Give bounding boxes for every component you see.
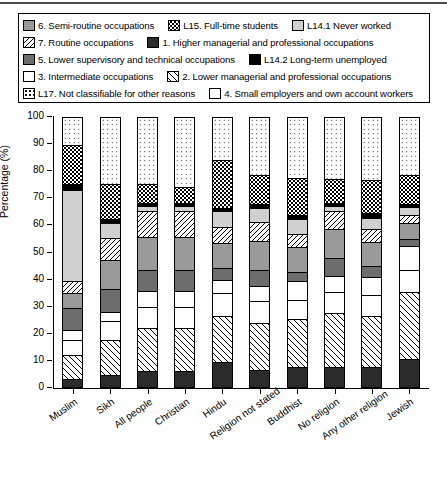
bar-segment-smallemp[interactable] xyxy=(325,277,344,293)
bar-segment-higher[interactable] xyxy=(288,368,307,387)
bar-segment-higher[interactable] xyxy=(250,371,269,387)
bar-segment-lowersup[interactable] xyxy=(63,309,82,331)
bar-segment-semiroutine[interactable] xyxy=(362,243,381,267)
bar-segment-neverworked[interactable] xyxy=(213,212,232,228)
bar-segment-notclass[interactable] xyxy=(325,118,344,180)
bar-segment-routine[interactable] xyxy=(250,223,269,242)
bar-segment-intermediate[interactable] xyxy=(362,296,381,318)
bar-segment-students[interactable] xyxy=(213,161,232,209)
bar-segment-neverworked[interactable] xyxy=(250,209,269,222)
bar-segment-notclass[interactable] xyxy=(288,118,307,179)
bar-segment-students[interactable] xyxy=(250,176,269,206)
bar-segment-smallemp[interactable] xyxy=(250,287,269,302)
bar-segment-lowermgr[interactable] xyxy=(362,317,381,368)
bar-segment-intermediate[interactable] xyxy=(138,308,157,330)
bar-segment-lowermgr[interactable] xyxy=(400,293,419,360)
bar-segment-semiroutine[interactable] xyxy=(250,242,269,272)
bar-segment-students[interactable] xyxy=(175,188,194,204)
bar-segment-students[interactable] xyxy=(400,176,419,206)
bar-segment-neverworked[interactable] xyxy=(63,191,82,282)
segment-divider xyxy=(325,313,344,314)
bar-segment-semiroutine[interactable] xyxy=(213,244,232,268)
bar-segment-neverworked[interactable] xyxy=(288,220,307,235)
bar-segment-lowermgr[interactable] xyxy=(138,329,157,372)
bar-segment-semiroutine[interactable] xyxy=(138,238,157,272)
stacked-bar[interactable] xyxy=(361,117,382,388)
bar-segment-neverworked[interactable] xyxy=(101,224,120,239)
bar-segment-higher[interactable] xyxy=(400,360,419,387)
bar-segment-higher[interactable] xyxy=(63,380,82,387)
bar-segment-lowermgr[interactable] xyxy=(288,320,307,368)
bar-segment-notclass[interactable] xyxy=(101,118,120,185)
bar-segment-semiroutine[interactable] xyxy=(325,230,344,260)
bar-segment-higher[interactable] xyxy=(138,372,157,387)
bar-segment-routine[interactable] xyxy=(175,212,194,238)
bar-segment-lowermgr[interactable] xyxy=(213,317,232,363)
bar-segment-lowermgr[interactable] xyxy=(63,356,82,380)
bar-segment-higher[interactable] xyxy=(213,363,232,387)
bar-segment-routine[interactable] xyxy=(138,212,157,238)
bar-segment-intermediate[interactable] xyxy=(250,302,269,324)
bar-segment-students[interactable] xyxy=(362,181,381,213)
stacked-bar[interactable] xyxy=(137,117,158,388)
bar-segment-higher[interactable] xyxy=(325,368,344,387)
bar-segment-intermediate[interactable] xyxy=(63,341,82,356)
bar-segment-intermediate[interactable] xyxy=(101,322,120,341)
bar-segment-routine[interactable] xyxy=(288,235,307,248)
bar-segment-lowermgr[interactable] xyxy=(325,314,344,368)
bar-segment-routine[interactable] xyxy=(325,212,344,229)
bar-segment-semiroutine[interactable] xyxy=(400,224,419,240)
bar-segment-lowermgr[interactable] xyxy=(175,329,194,372)
bar-segment-lowermgr[interactable] xyxy=(101,341,120,376)
bar-segment-smallemp[interactable] xyxy=(362,278,381,295)
bar-segment-routine[interactable] xyxy=(362,230,381,243)
bar-segment-lowersup[interactable] xyxy=(325,259,344,276)
bar-segment-higher[interactable] xyxy=(175,372,194,387)
bar-segment-notclass[interactable] xyxy=(250,118,269,176)
stacked-bar[interactable] xyxy=(100,117,121,388)
bar-segment-notclass[interactable] xyxy=(362,118,381,181)
bar-segment-lowersup[interactable] xyxy=(250,271,269,287)
stacked-bar[interactable] xyxy=(62,117,83,388)
stacked-bar[interactable] xyxy=(174,117,195,388)
bar-segment-notclass[interactable] xyxy=(400,118,419,176)
bar-segment-smallemp[interactable] xyxy=(213,281,232,294)
bar-segment-routine[interactable] xyxy=(101,239,120,261)
bar-segment-students[interactable] xyxy=(63,146,82,185)
bar-segment-students[interactable] xyxy=(325,180,344,204)
stacked-bar[interactable] xyxy=(399,117,420,388)
bar-segment-notclass[interactable] xyxy=(138,118,157,185)
stacked-bar[interactable] xyxy=(324,117,345,388)
bar-segment-semiroutine[interactable] xyxy=(175,238,194,272)
bar-segment-notclass[interactable] xyxy=(213,118,232,161)
bar-segment-notclass[interactable] xyxy=(175,118,194,188)
bar-segment-students[interactable] xyxy=(101,185,120,220)
bar-segment-notclass[interactable] xyxy=(63,118,82,146)
bar-segment-semiroutine[interactable] xyxy=(63,294,82,309)
bar-segment-intermediate[interactable] xyxy=(175,308,194,330)
bar-segment-intermediate[interactable] xyxy=(325,293,344,315)
bar-segment-semiroutine[interactable] xyxy=(101,261,120,291)
bar-segment-smallemp[interactable] xyxy=(138,292,157,308)
bar-segment-smallemp[interactable] xyxy=(288,282,307,301)
bar-segment-lowersup[interactable] xyxy=(101,290,120,313)
bar-segment-students[interactable] xyxy=(138,185,157,204)
bar-segment-higher[interactable] xyxy=(101,376,120,387)
bar-segment-smallemp[interactable] xyxy=(400,247,419,271)
bar-segment-higher[interactable] xyxy=(362,368,381,387)
legend-item-label: 3. Intermediate occupations xyxy=(38,72,153,82)
bar-segment-intermediate[interactable] xyxy=(400,271,419,293)
stacked-bar[interactable] xyxy=(212,117,233,388)
stacked-bar[interactable] xyxy=(249,117,270,388)
bar-segment-routine[interactable] xyxy=(213,228,232,244)
bar-segment-intermediate[interactable] xyxy=(213,294,232,317)
bar-segment-semiroutine[interactable] xyxy=(288,248,307,272)
stacked-bar[interactable] xyxy=(287,117,308,388)
bar-segment-lowersup[interactable] xyxy=(175,271,194,291)
legend-item: 4. Small employers and own account worke… xyxy=(209,88,413,99)
bar-segment-intermediate[interactable] xyxy=(288,301,307,320)
bar-segment-students[interactable] xyxy=(288,179,307,217)
bar-segment-lowermgr[interactable] xyxy=(250,324,269,371)
bar-segment-smallemp[interactable] xyxy=(175,292,194,308)
bar-segment-lowersup[interactable] xyxy=(138,271,157,291)
